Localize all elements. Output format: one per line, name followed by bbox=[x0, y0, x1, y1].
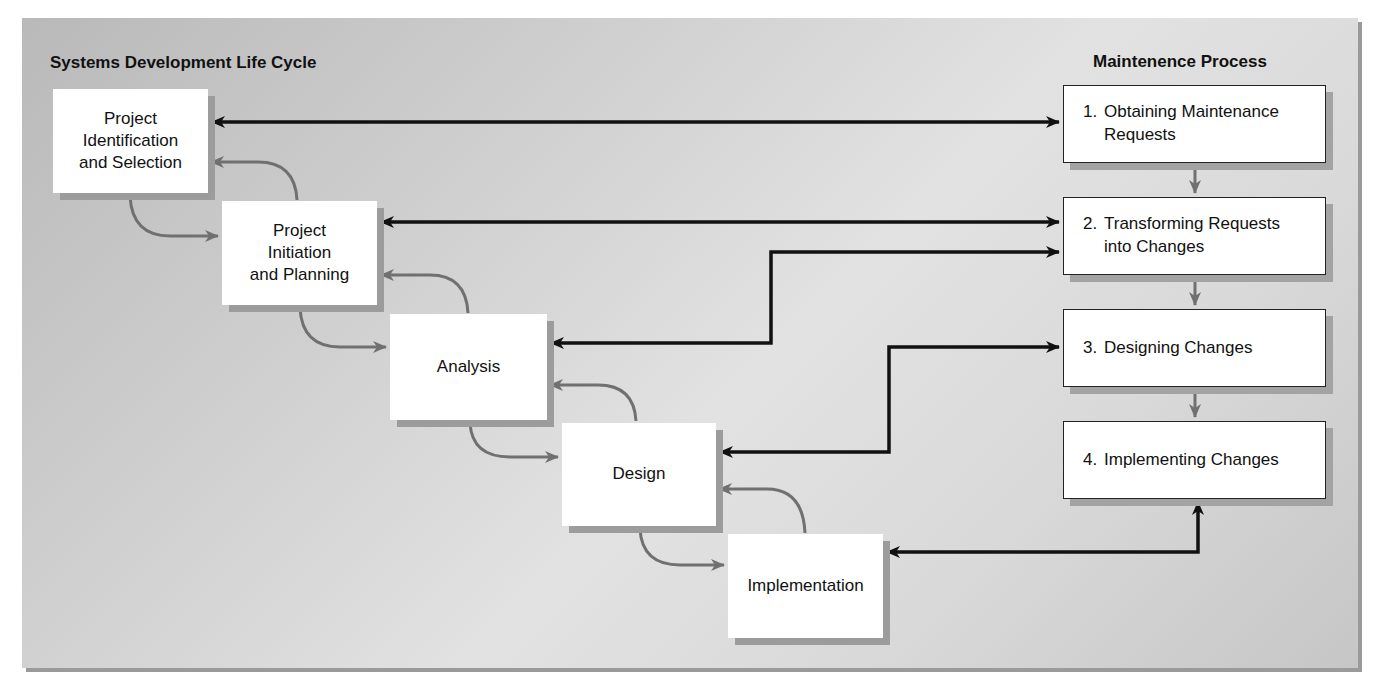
step-number: 4. bbox=[1083, 449, 1104, 472]
step-number: 3. bbox=[1083, 337, 1104, 360]
phase-label: Project Initiation and Planning bbox=[250, 220, 349, 286]
phase-label: Implementation bbox=[747, 575, 863, 597]
maintenance-step-3: 3.Designing Changes bbox=[1063, 309, 1326, 387]
phase-project-initiation: Project Initiation and Planning bbox=[222, 201, 377, 305]
phase-design: Design bbox=[562, 423, 716, 526]
step-label: Obtaining Maintenance Requests bbox=[1104, 101, 1279, 147]
phase-label: Project Identification and Selection bbox=[79, 108, 182, 174]
step-label: Transforming Requests into Changes bbox=[1104, 213, 1280, 259]
phase-label: Design bbox=[613, 463, 666, 485]
maintenance-step-2: 2.Transforming Requests into Changes bbox=[1063, 197, 1326, 275]
step-number: 2. bbox=[1083, 213, 1104, 236]
phase-implementation: Implementation bbox=[728, 534, 883, 638]
maintenance-title: Maintenence Process bbox=[1093, 52, 1267, 72]
phase-analysis: Analysis bbox=[390, 314, 547, 420]
step-label: Implementing Changes bbox=[1104, 449, 1279, 472]
sdlc-title: Systems Development Life Cycle bbox=[50, 53, 316, 73]
maintenance-step-1: 1.Obtaining Maintenance Requests bbox=[1063, 85, 1326, 163]
step-number: 1. bbox=[1083, 101, 1104, 124]
maintenance-step-4: 4.Implementing Changes bbox=[1063, 421, 1326, 499]
phase-project-identification: Project Identification and Selection bbox=[53, 89, 208, 193]
phase-label: Analysis bbox=[437, 356, 500, 378]
step-label: Designing Changes bbox=[1104, 337, 1252, 360]
